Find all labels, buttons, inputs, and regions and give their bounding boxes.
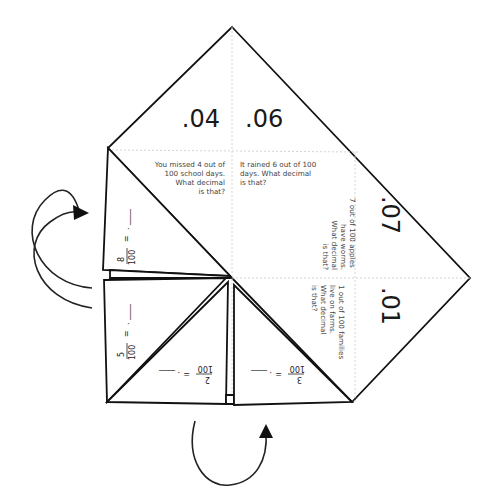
label-04: .04 (182, 105, 220, 133)
svg-text:100: 100 (128, 345, 137, 360)
flap-strip-2 (226, 395, 234, 404)
svg-text:You missed 4 out of: You missed 4 out of (154, 160, 226, 169)
svg-text:is that?: is that? (310, 285, 319, 312)
label-07: .07 (376, 196, 404, 234)
svg-text:=: = (122, 235, 131, 242)
label-01: .01 (376, 287, 404, 325)
svg-text:. ____: . ____ (158, 370, 180, 379)
svg-text:100: 100 (198, 364, 213, 373)
svg-text:=: = (275, 370, 282, 379)
svg-text:100: 100 (128, 250, 137, 265)
svg-text:What decimal: What decimal (330, 220, 339, 270)
svg-text:1 out of 100 families: 1 out of 100 families (337, 285, 346, 359)
svg-text:3: 3 (297, 375, 302, 384)
svg-text:is that?: is that? (321, 244, 330, 271)
svg-text:is that?: is that? (199, 187, 226, 196)
svg-text:100 school days.: 100 school days. (164, 169, 225, 178)
svg-text:What decimal: What decimal (319, 285, 328, 335)
bottom-fold-arrow-icon (192, 421, 273, 485)
svg-text:5: 5 (117, 352, 126, 357)
svg-text:=: = (183, 370, 190, 379)
svg-text:2: 2 (205, 375, 210, 384)
label-06: .06 (245, 105, 283, 133)
svg-text:It rained 6 out of 100: It rained 6 out of 100 (240, 160, 317, 169)
left-fold-arrow-icon (32, 190, 92, 308)
svg-text:. ____: . ____ (250, 370, 272, 379)
svg-text:8: 8 (117, 257, 126, 262)
svg-text:have worms.: have worms. (339, 224, 348, 270)
svg-text:7 out of 100 apples: 7 out of 100 apples (348, 198, 357, 268)
svg-text:=: = (122, 330, 131, 337)
svg-text:. ____: . ____ (122, 303, 131, 325)
svg-text:100: 100 (290, 364, 305, 373)
svg-text:is that?: is that? (240, 178, 267, 187)
svg-text:What decimal: What decimal (175, 178, 225, 187)
fortune-teller-diagram: .04 .06 .07 .01 You missed 4 out of 100 … (0, 0, 493, 503)
svg-text:. ____: . ____ (122, 208, 131, 230)
svg-text:live on farms.: live on farms. (328, 285, 337, 334)
svg-text:days. What decimal: days. What decimal (240, 169, 311, 178)
